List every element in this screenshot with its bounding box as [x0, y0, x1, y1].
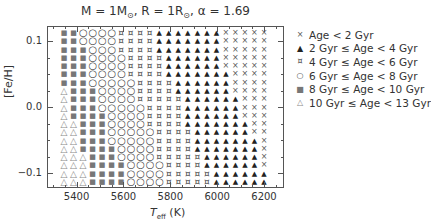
data-point: ▲ [231, 178, 239, 186]
x-minor-tick [53, 185, 54, 188]
x-label-symbol: T [150, 206, 157, 219]
data-point: ▲ [203, 54, 211, 62]
data-point: ▲ [174, 37, 182, 45]
data-point: △ [79, 178, 87, 186]
data-point: ▲ [193, 137, 201, 145]
x-label-unit: (K) [166, 206, 185, 219]
data-point: ▲ [241, 128, 249, 136]
legend-entry: ○6 Gyr ≤ Age < 8 Gyr [295, 69, 431, 83]
data-point: ■ [79, 46, 87, 54]
data-point: ▲ [193, 87, 201, 95]
y-tick-mark [278, 41, 284, 42]
data-point: ▲ [250, 137, 258, 145]
x-minor-tick [194, 26, 195, 29]
data-point: ▲ [203, 120, 211, 128]
x-tick-label: 6000 [204, 191, 229, 202]
data-point: ○ [117, 153, 125, 161]
data-point: ▲ [165, 46, 173, 54]
data-point: ▲ [193, 54, 201, 62]
data-point: ■ [70, 62, 78, 70]
data-point: ■ [89, 128, 97, 136]
x-minor-tick [182, 185, 183, 188]
data-point: ■ [70, 104, 78, 112]
x-label-subscript: eff [157, 213, 166, 221]
y-axis-label: [Fe/H] [2, 65, 15, 98]
data-point: ▲ [203, 79, 211, 87]
x-minor-tick [276, 26, 277, 29]
data-point: ■ [98, 161, 106, 169]
data-point: ▲ [193, 37, 201, 45]
x-axis-label: Teff (K) [150, 206, 185, 221]
data-point: ■ [117, 161, 125, 169]
data-point: ■ [89, 104, 97, 112]
legend: ×Age < 2 Gyr▲2 Gyr ≤ Age < 4 Gyr¤4 Gyr ≤… [295, 28, 431, 110]
data-point: ▲ [193, 79, 201, 87]
data-point: ▲ [231, 120, 239, 128]
data-point: ¤ [165, 178, 173, 186]
data-point: ■ [89, 153, 97, 161]
data-point: ▲ [165, 62, 173, 70]
data-point: ○ [136, 178, 144, 186]
x-tick-mark [264, 182, 265, 188]
x-tick-mark [77, 26, 78, 32]
y-tick-mark [278, 107, 284, 108]
x-minor-tick [147, 26, 148, 29]
data-point: ■ [108, 153, 116, 161]
x-minor-tick [205, 26, 206, 29]
data-point: ○ [98, 104, 106, 112]
data-point: ▲ [203, 95, 211, 103]
x-tick-mark [77, 182, 78, 188]
x-minor-tick [147, 185, 148, 188]
x-minor-tick [276, 185, 277, 188]
data-point: ■ [108, 170, 116, 178]
y-minor-tick [281, 74, 284, 75]
x-minor-tick [241, 185, 242, 188]
data-point: ■ [98, 128, 106, 136]
x-minor-tick [100, 26, 101, 29]
legend-marker-icon: × [295, 30, 305, 39]
data-point: ■ [108, 145, 116, 153]
x-minor-tick [88, 26, 89, 29]
data-point: ■ [89, 145, 97, 153]
data-point: ▲ [212, 153, 220, 161]
data-point: ▲ [241, 178, 249, 186]
data-point: ■ [60, 70, 68, 78]
data-point: ■ [79, 70, 87, 78]
data-point: ▲ [241, 137, 249, 145]
data-point: ▲ [193, 46, 201, 54]
data-point: ▲ [222, 161, 230, 169]
data-point: ▲ [212, 170, 220, 178]
plot-area: ■■○○○○¤¤¤¤▲▲▲▲▲▲▲×××××■■○○○○¤¤¤¤▲▲▲▲▲▲▲×… [47, 26, 284, 188]
data-point: ▲ [231, 104, 239, 112]
data-point: ▲ [174, 29, 182, 37]
y-minor-tick [47, 157, 50, 158]
x-minor-tick [241, 26, 242, 29]
legend-label: 10 Gyr ≤ Age < 13 Gyr [309, 97, 431, 109]
data-point: ○ [89, 79, 97, 87]
data-point: ▲ [222, 87, 230, 95]
data-point: ▲ [184, 95, 192, 103]
data-point: ▲ [193, 128, 201, 136]
data-point: ▲ [203, 46, 211, 54]
data-point: ■ [60, 29, 68, 37]
data-point: ▲ [184, 112, 192, 120]
data-point: ▲ [203, 112, 211, 120]
data-point: × [241, 112, 249, 120]
data-point: ■ [89, 178, 97, 186]
legend-entry: ▲2 Gyr ≤ Age < 4 Gyr [295, 42, 431, 56]
data-point: ▲ [222, 70, 230, 78]
data-point: ▲ [174, 70, 182, 78]
data-point: ■ [79, 128, 87, 136]
data-point: ▲ [241, 161, 249, 169]
legend-marker-icon: ○ [295, 71, 305, 80]
x-tick-mark [217, 26, 218, 32]
data-point: ▲ [184, 70, 192, 78]
legend-marker-icon: ▲ [295, 44, 305, 53]
x-minor-tick [159, 185, 160, 188]
data-point: ■ [89, 112, 97, 120]
y-tick-mark [278, 173, 284, 174]
data-point: ▲ [184, 62, 192, 70]
data-point: ▲ [212, 137, 220, 145]
x-tick-label: 6200 [251, 191, 276, 202]
legend-entry: ×Age < 2 Gyr [295, 28, 431, 42]
